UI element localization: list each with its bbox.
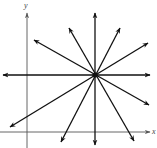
- center-point: [92, 72, 97, 77]
- line-shallow-positive: [10, 43, 148, 127]
- x-axis-label: x: [151, 127, 156, 136]
- y-axis-label: y: [23, 1, 28, 10]
- line-pencil: [3, 13, 150, 145]
- line-steep-positive: [61, 28, 120, 142]
- lines-through-point-diagram: x y: [0, 0, 157, 148]
- line-shallow-negative: [34, 40, 149, 105]
